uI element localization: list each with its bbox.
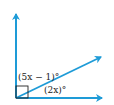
upper-angle-label: (5x − 1)° xyxy=(18,72,59,82)
angle-diagram: (5x − 1)° (2x)° xyxy=(0,0,114,105)
lower-angle-label: (2x)° xyxy=(44,85,66,95)
